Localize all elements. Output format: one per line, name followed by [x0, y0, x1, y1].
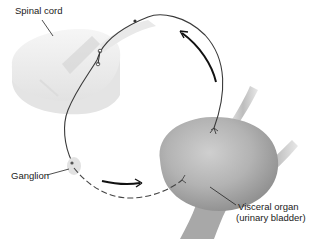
ganglion [67, 157, 81, 175]
organ-label-line1: Visceral organ [238, 201, 299, 212]
ganglion-leader [47, 169, 69, 175]
dorsal-root-ganglion-dot [133, 19, 136, 22]
efferent-arrow [102, 179, 142, 187]
urinary-bladder [160, 117, 279, 211]
ganglion-synapse [70, 161, 73, 164]
reflex-arc-diagram: Spinal cord Ganglion Visceral organ (uri… [0, 0, 311, 239]
organ-label-line2: (urinary bladder) [236, 212, 306, 223]
spinal-cord-label: Spinal cord [15, 5, 63, 16]
afferent-arrow [180, 31, 216, 82]
ganglion-label: Ganglion [11, 170, 49, 181]
